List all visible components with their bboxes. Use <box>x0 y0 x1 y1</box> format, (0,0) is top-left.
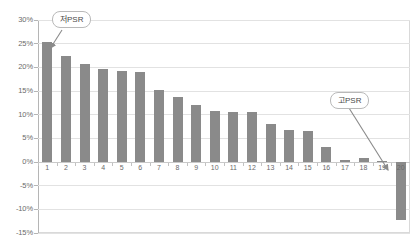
y-tick-label: -5% <box>0 182 33 190</box>
x-tick-label: 17 <box>338 163 352 173</box>
x-tick-mark <box>187 163 188 166</box>
x-tick-label: 8 <box>171 163 185 173</box>
x-tick-mark <box>317 163 318 166</box>
x-tick-mark <box>224 163 225 166</box>
x-tick-label: 4 <box>96 163 110 173</box>
x-tick-label: 13 <box>264 163 278 173</box>
x-tick-mark <box>243 163 244 166</box>
bar <box>247 112 257 162</box>
x-tick-label: 11 <box>226 163 240 173</box>
x-tick-mark <box>391 163 392 166</box>
x-tick-mark <box>261 163 262 166</box>
x-tick-mark <box>57 163 58 166</box>
y-tick-label: -15% <box>0 229 33 237</box>
x-tick-mark <box>336 163 337 166</box>
bar <box>266 124 276 162</box>
bar <box>284 130 294 162</box>
y-tick-label: 10% <box>0 111 33 119</box>
x-tick-label: 18 <box>357 163 371 173</box>
bar <box>359 158 369 162</box>
bar <box>377 161 387 162</box>
y-tick-label: 30% <box>0 16 33 24</box>
x-axis-labels: 1234567891011121314151617181920 <box>38 163 410 175</box>
x-tick-label: 9 <box>189 163 203 173</box>
x-tick-label: 3 <box>78 163 92 173</box>
bar <box>228 112 238 162</box>
y-tick-label: 15% <box>0 87 33 95</box>
x-tick-mark <box>205 163 206 166</box>
x-tick-label: 14 <box>282 163 296 173</box>
x-tick-mark <box>131 163 132 166</box>
y-tick-label: 5% <box>0 134 33 142</box>
x-tick-mark <box>150 163 151 166</box>
x-tick-mark <box>354 163 355 166</box>
bar <box>80 64 90 162</box>
bar <box>135 72 145 162</box>
x-tick-mark <box>75 163 76 166</box>
x-tick-label: 6 <box>133 163 147 173</box>
x-tick-mark <box>94 163 95 166</box>
x-tick-label: 12 <box>245 163 259 173</box>
y-tick-label: 0% <box>0 158 33 166</box>
bar <box>98 69 108 162</box>
bar <box>173 97 183 162</box>
bar <box>321 147 331 162</box>
x-tick-mark <box>280 163 281 166</box>
bar-series <box>38 20 410 233</box>
annotation-label-low-psr: 저PSR <box>52 11 91 28</box>
x-tick-mark <box>38 163 39 166</box>
x-tick-label: 15 <box>301 163 315 173</box>
x-tick-mark <box>112 163 113 166</box>
x-tick-label: 20 <box>394 163 408 173</box>
bar <box>210 111 220 162</box>
x-tick-label: 16 <box>319 163 333 173</box>
bar <box>303 131 313 162</box>
bar <box>117 71 127 162</box>
x-tick-label: 10 <box>208 163 222 173</box>
x-tick-mark <box>298 163 299 166</box>
bar-chart: 30%25%20%15%10%5%0%-5%-10%-15% 123456789… <box>0 0 417 252</box>
x-tick-label: 1 <box>40 163 54 173</box>
bar <box>61 56 71 162</box>
x-tick-label: 5 <box>115 163 129 173</box>
x-tick-label: 19 <box>375 163 389 173</box>
annotation-label-high-psr: 고PSR <box>330 92 369 109</box>
x-tick-mark <box>373 163 374 166</box>
y-tick-label: 25% <box>0 40 33 48</box>
x-tick-mark <box>168 163 169 166</box>
x-tick-label: 7 <box>152 163 166 173</box>
bar <box>154 90 164 162</box>
bar <box>191 105 201 162</box>
bar <box>340 160 350 162</box>
y-tick-label: 20% <box>0 63 33 71</box>
bar <box>42 42 52 162</box>
x-tick-label: 2 <box>59 163 73 173</box>
y-tick-label: -10% <box>0 205 33 213</box>
